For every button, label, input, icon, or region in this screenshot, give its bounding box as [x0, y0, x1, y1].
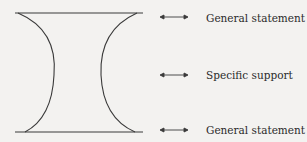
double-arrow-icon [160, 73, 188, 77]
left-curve [18, 13, 54, 132]
label-general-statement-top: General statement [206, 12, 305, 24]
double-arrow-icon [160, 15, 188, 19]
right-curve [101, 13, 137, 132]
label-general-statement-bottom: General statement [206, 124, 305, 136]
double-arrow-icon [160, 128, 188, 132]
label-specific-support: Specific support [206, 69, 293, 81]
